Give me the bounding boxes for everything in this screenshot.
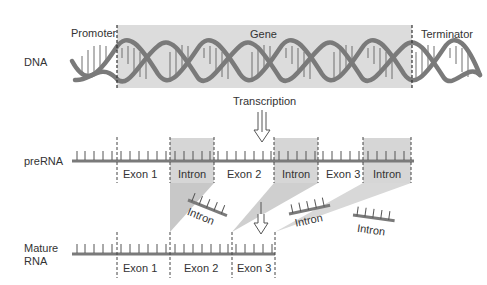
excised-intron-3: Intron: [350, 206, 395, 239]
prerna-intron-3-label: Intron: [373, 168, 401, 180]
prerna-intron-1-label: Intron: [178, 168, 206, 180]
transcription-label: Transcription: [233, 95, 296, 107]
prerna-exon-1-label: Exon 1: [123, 168, 157, 180]
mature-exon-1-label: Exon 1: [123, 262, 157, 274]
terminator-label: Terminator: [421, 28, 473, 40]
mature-rna-strand: [72, 244, 275, 254]
dna-row-label: DNA: [24, 56, 48, 68]
prerna-exon-2-label: Exon 2: [227, 168, 261, 180]
prerna-exon-3-label: Exon 3: [326, 168, 360, 180]
prerna-intron-2-label: Intron: [282, 168, 310, 180]
mature-exon-2-label: Exon 2: [184, 262, 218, 274]
mature-exon-3-label: Exon 3: [237, 262, 271, 274]
transcription-arrow-icon: [254, 110, 270, 142]
gene-expression-diagram: Promoter Gene Terminator DNA Transcripti…: [0, 0, 487, 285]
mature-rna-row-label-line1: Mature: [24, 242, 58, 254]
promoter-label: Promoter: [71, 27, 117, 39]
gene-label: Gene: [250, 28, 277, 40]
prerna-row-label: preRNA: [24, 155, 64, 167]
mature-rna-row-label-line2: RNA: [24, 255, 48, 267]
excised-intron-2-label: Intron: [294, 211, 324, 229]
excised-intron-3-label: Intron: [356, 222, 386, 238]
